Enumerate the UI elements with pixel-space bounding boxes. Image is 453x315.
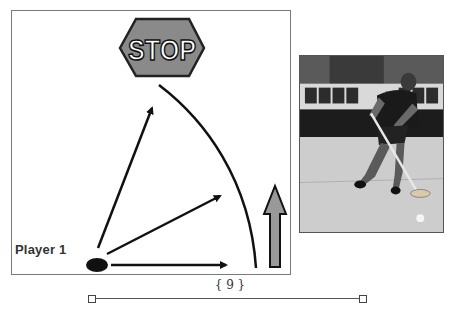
stop-curve <box>159 85 256 268</box>
stop-sign-text: STOP <box>128 33 196 66</box>
footer-rule-line <box>92 298 363 299</box>
player-photo <box>299 55 444 233</box>
page-number: { 9 } <box>200 278 260 292</box>
forward-arrow-icon <box>264 186 286 267</box>
footer-rule-right-handle <box>359 295 367 303</box>
arrow-up-left-icon <box>98 108 152 248</box>
footer-rule <box>88 295 367 303</box>
arrow-diagonal-icon <box>107 196 220 254</box>
floorball-player-image <box>300 56 443 232</box>
player-label: Player 1 <box>15 242 66 257</box>
player-marker-icon <box>86 258 108 272</box>
footer-rule-left-handle <box>88 295 96 303</box>
stop-sign-icon: STOP <box>120 19 204 76</box>
